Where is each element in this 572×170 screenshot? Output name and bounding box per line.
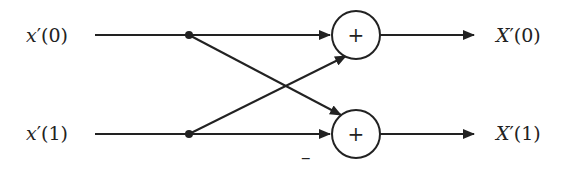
adder-top-plus: + bbox=[348, 23, 365, 47]
output-label-1: X′(1) bbox=[494, 122, 541, 144]
output-label-0: X′(0) bbox=[494, 24, 541, 46]
butterfly-diagram: x′(0) x′(1) + + – X′(0) X′(1) bbox=[0, 0, 572, 170]
negation-sign: – bbox=[301, 146, 311, 168]
node-dot-top bbox=[185, 31, 193, 39]
branch-cross-up bbox=[189, 56, 346, 134]
adder-bottom-plus: + bbox=[348, 122, 365, 146]
branch-cross-down bbox=[189, 35, 341, 115]
node-dot-bottom bbox=[185, 130, 193, 138]
input-label-1: x′(1) bbox=[26, 122, 68, 144]
input-label-0: x′(0) bbox=[26, 24, 68, 46]
